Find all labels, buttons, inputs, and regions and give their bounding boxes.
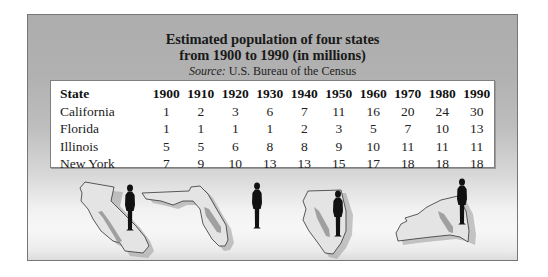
- person-silhouette-icon: [252, 182, 262, 228]
- figure-frame: Estimated population of four states from…: [27, 14, 518, 261]
- state-illustrations: [28, 15, 519, 262]
- illinois-map-icon: [303, 190, 353, 259]
- florida-map-icon: [142, 15, 263, 251]
- new-york-map-icon: [396, 178, 476, 245]
